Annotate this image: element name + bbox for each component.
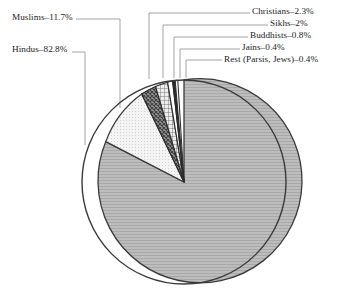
slice-label-buddhists: Buddhists–0.8% <box>250 30 311 41</box>
leader-line-hindus <box>72 52 85 145</box>
leader-line-muslims <box>76 19 120 108</box>
slice-label-muslims: Muslims–11.7% <box>12 12 73 23</box>
slice-label-rest: Rest (Parsis, Jews)–0.4% <box>224 54 318 65</box>
slice-label-sikhs: Sikhs–2% <box>270 18 308 29</box>
slice-label-christians: Christians–2.3% <box>252 6 314 17</box>
slice-label-hindus: Hindus–82.8% <box>12 44 67 55</box>
leader-line-christians <box>149 13 250 79</box>
pie-chart-figure: Christians–2.3% Sikhs–2% Buddhists–0.8% … <box>0 0 349 300</box>
leader-line-rest <box>186 60 222 78</box>
pie-slices <box>82 79 302 284</box>
slice-label-jains: Jains–0.4% <box>242 42 285 53</box>
